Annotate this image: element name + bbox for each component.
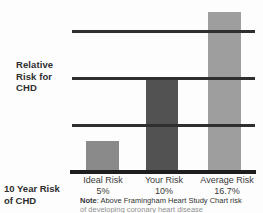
category-value-your-risk: 10%	[133, 186, 195, 197]
bottom-left-caption-line-2: of CHD	[4, 195, 80, 207]
gridline-middle	[72, 77, 255, 80]
category-value-average-risk: 16.7%	[194, 186, 260, 197]
bottom-left-caption-line-1: 10 Year Risk	[4, 183, 80, 195]
risk-chart-figure: Relative Risk for CHD Ideal Risk 5% Your…	[0, 0, 263, 213]
gridline-upper	[72, 30, 255, 33]
category-label-average-risk: Average Risk 16.7%	[194, 175, 260, 196]
gridline-lower	[72, 124, 255, 127]
footnote-text-1: Above Framingham Heart Study Chart risk	[99, 196, 242, 205]
footnote: Note: Above Framingham Heart Study Chart…	[80, 197, 263, 213]
bar-average-risk	[208, 12, 241, 172]
x-axis-baseline	[70, 170, 256, 174]
footnote-label: Note	[80, 196, 97, 205]
category-label-your-risk: Your Risk 10%	[133, 175, 195, 196]
category-value-ideal-risk: 5%	[72, 186, 134, 197]
bar-ideal-risk	[86, 141, 119, 172]
category-name-average-risk: Average Risk	[194, 175, 260, 186]
category-name-ideal-risk: Ideal Risk	[72, 175, 134, 186]
category-name-your-risk: Your Risk	[133, 175, 195, 186]
bottom-left-caption: 10 Year Risk of CHD	[4, 183, 80, 206]
footnote-line-2: of developing coronary heart disease	[80, 206, 263, 213]
category-label-ideal-risk: Ideal Risk 5%	[72, 175, 134, 196]
